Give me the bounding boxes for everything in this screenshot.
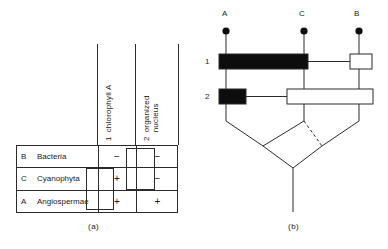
header-rule-left — [97, 44, 98, 145]
table-row: C Cyanophyta + − — [17, 168, 177, 190]
column-header-2-label-line1: organized — [142, 95, 151, 132]
otu-dot-B — [355, 27, 362, 34]
cell-state-c2: − — [136, 146, 179, 167]
table-row: B Bacteria − − — [17, 146, 177, 168]
column-header-1-number: 1 — [104, 136, 113, 141]
row-taxon-name: Angiospermae — [37, 191, 97, 213]
cell-state-c1: + — [98, 168, 136, 189]
branch-A-to-left-node — [226, 121, 263, 146]
cell-state-c2: + — [136, 191, 179, 213]
panel-a-matrix: 1chlorophyll A 2 organized nucleus B Bac… — [0, 0, 194, 249]
bar-row2-white-C-B — [287, 89, 373, 104]
dashed-alternative-link — [304, 121, 322, 146]
otu-dot-C — [300, 27, 307, 34]
column-header-2-number: 2 — [142, 136, 151, 141]
header-rule-right — [178, 44, 179, 145]
bar-row1-white-B — [350, 54, 372, 69]
otu-dot-A — [222, 27, 229, 34]
character-matrix-table: B Bacteria − − C Cyanophyta + − A Angios… — [16, 145, 178, 213]
branch-right-node-to-root — [293, 146, 322, 168]
cell-state-c2: − — [136, 168, 179, 189]
branch-B-to-right-node — [322, 121, 359, 146]
column-header-nucleus: 2 organized nucleus — [142, 81, 160, 141]
character-row-1-bars — [219, 54, 372, 69]
panel-b-tree: A C B 1 2 — [194, 0, 388, 249]
cell-state-c1: + — [98, 191, 136, 213]
cell-state-c1: − — [98, 146, 136, 167]
bar-row2-black-A — [219, 89, 246, 104]
character-row-2-bars — [219, 89, 373, 104]
row-taxon-name: Cyanophyta — [37, 168, 97, 189]
branch-left-node-to-root — [263, 146, 293, 168]
row-code: B — [21, 146, 35, 167]
character-state-tree-graphic — [194, 0, 388, 249]
row-code: C — [21, 168, 35, 189]
bar-row1-black-A-C — [219, 54, 308, 69]
row-code: A — [21, 191, 35, 213]
column-header-2-label-line2: nucleus — [151, 95, 160, 132]
header-rule-middle — [135, 44, 136, 145]
column-header-chlorophyll: 1chlorophyll A — [104, 84, 113, 141]
table-row: A Angiospermae + + — [17, 191, 177, 213]
panel-a-caption: (a) — [88, 222, 99, 231]
panel-b-caption: (b) — [288, 222, 299, 231]
otu-terminal-dots — [222, 27, 362, 34]
row-taxon-name: Bacteria — [37, 146, 97, 167]
branch-C-to-left-node — [263, 121, 304, 146]
column-header-1-label: chlorophyll A — [104, 84, 113, 132]
